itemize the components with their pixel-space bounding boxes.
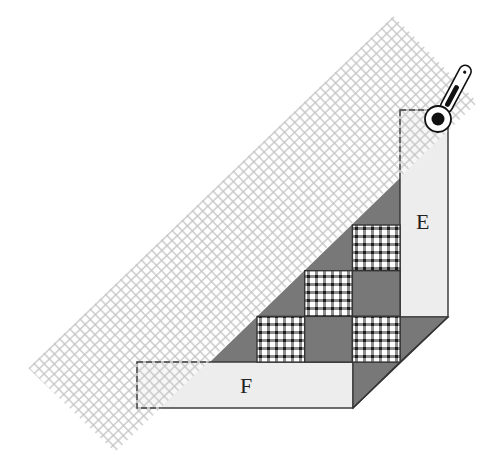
gingham-square — [352, 225, 400, 271]
cutter-blade — [432, 113, 445, 126]
strip-e-label: E — [416, 209, 429, 234]
quilt-diagram: E F — [0, 0, 494, 467]
dark-square — [305, 316, 353, 362]
gingham-square — [257, 316, 305, 362]
gingham-square — [352, 316, 400, 362]
strip-f-label: F — [240, 373, 252, 398]
gingham-square — [305, 271, 353, 317]
dark-square — [352, 271, 400, 317]
